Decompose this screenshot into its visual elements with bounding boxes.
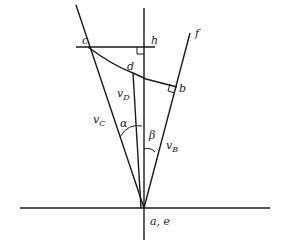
label-vb: vB xyxy=(166,139,178,154)
label-d: d xyxy=(127,60,134,73)
right-angle-h xyxy=(137,47,144,54)
label-origin: a, e xyxy=(150,215,171,228)
label-h: h xyxy=(151,34,158,47)
label-vc: vC xyxy=(93,113,105,128)
label-alpha: α xyxy=(120,117,128,130)
diagram-canvas: c h d b f a, e vC vD vB α β xyxy=(0,0,284,252)
label-f: f xyxy=(194,27,201,40)
arc-beta xyxy=(144,148,155,152)
diagram-svg: c h d b f a, e vC vD vB α β xyxy=(0,0,284,252)
label-b: b xyxy=(179,82,186,95)
label-c: c xyxy=(82,34,88,47)
line-vb xyxy=(144,33,190,208)
label-vd: vD xyxy=(117,87,130,102)
label-beta: β xyxy=(148,129,155,142)
